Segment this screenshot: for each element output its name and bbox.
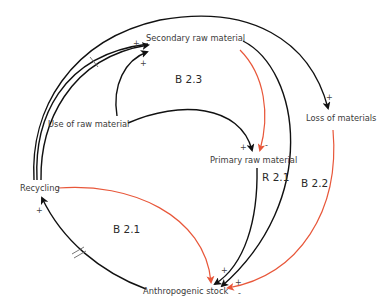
node-loss-of-materials: Loss of materials <box>306 113 376 123</box>
sign-stock-to-recycling: + <box>36 206 43 215</box>
loop-label-b23: B 2.3 <box>175 73 202 85</box>
sign-primary-to-stock: + <box>221 266 228 275</box>
sign-secondary-to-primary: - <box>265 141 268 150</box>
sign-use-to-secondary: + <box>140 59 147 68</box>
sign-to-loss: + <box>326 93 333 102</box>
sign-secondary-to-stock: + <box>235 278 242 287</box>
sign-use-to-primary: + <box>240 143 247 152</box>
link-recycling-to-secondary-b <box>41 45 148 180</box>
loop-label-b21: B 2.1 <box>113 223 140 235</box>
link-recycling-to-secondary-a <box>37 44 148 180</box>
sign-loss-to-stock: - <box>238 289 241 298</box>
node-primary-raw-material: Primary raw material <box>210 155 297 165</box>
link-use-to-primary <box>128 110 252 150</box>
causal-loop-diagram: Secondary raw material Use of raw materi… <box>0 0 391 306</box>
loop-label-r21: R 2.1 <box>262 171 289 183</box>
sign-recycling-to-secondary: + <box>133 39 140 48</box>
node-anthropogenic-stock: Anthropogenic stock <box>143 286 228 296</box>
node-recycling: Recycling <box>20 183 60 193</box>
link-secondary-to-primary <box>240 50 265 150</box>
link-stock-to-recycling <box>42 198 146 289</box>
node-use-of-raw-material: Use of raw material <box>48 119 129 129</box>
node-secondary-raw-material: Secondary raw material <box>146 33 245 43</box>
loop-label-b22: B 2.2 <box>301 177 328 189</box>
